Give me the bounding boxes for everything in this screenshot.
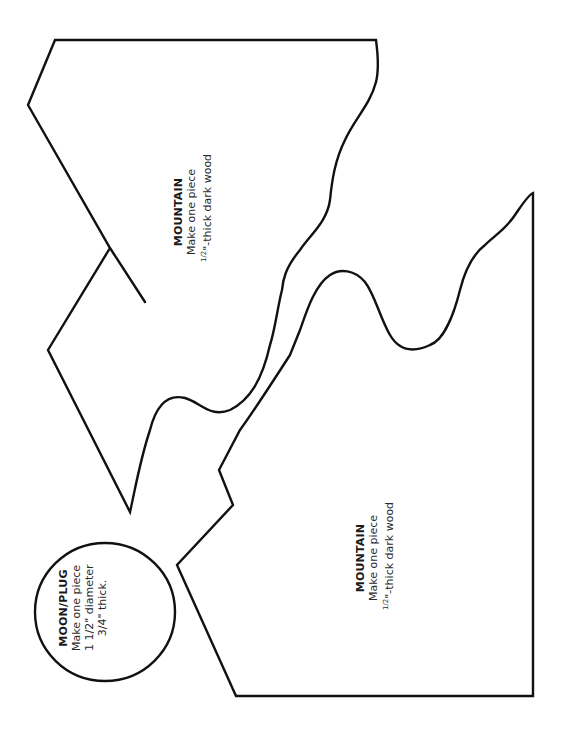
upper-mountain-quantity: Make one piece [185, 162, 198, 262]
lower-mountain-material: 1/2"-thick dark wood [380, 506, 396, 610]
lower-mountain-outline [177, 193, 533, 696]
upper-mountain-title: MOUNTAIN [172, 162, 185, 262]
moon-plug-diameter: 1 1/2" diameter [83, 565, 96, 651]
moon-plug-label: MOON/PLUG Make one piece 1 1/2" diameter… [57, 565, 109, 651]
material-text: "-thick dark wood [383, 502, 396, 599]
moon-plug-quantity: Make one piece [70, 565, 83, 651]
moon-plug-title: MOON/PLUG [57, 565, 70, 651]
material-text: "-thick dark wood [201, 154, 214, 251]
lower-mountain-title: MOUNTAIN [354, 506, 367, 610]
upper-mountain-label: MOUNTAIN Make one piece 1/2"-thick dark … [172, 162, 214, 262]
moon-plug-thickness: 3/4" thick. [96, 565, 109, 651]
lower-mountain-quantity: Make one piece [367, 506, 380, 610]
fraction: 1/2 [200, 251, 208, 262]
upper-mountain-outline [28, 40, 378, 512]
lower-mountain-label: MOUNTAIN Make one piece 1/2"-thick dark … [354, 506, 396, 610]
upper-mountain-material: 1/2"-thick dark wood [198, 162, 214, 262]
fraction: 1/2 [382, 599, 390, 610]
